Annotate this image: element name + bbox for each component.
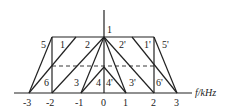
tick-label: 0 [101, 97, 106, 108]
tick-label: 3 [174, 97, 179, 108]
tick-label: -3 [23, 97, 31, 108]
tick-label: -1 [75, 97, 83, 108]
region-label: 3 [74, 77, 79, 88]
region-label: 1 [60, 39, 65, 50]
axis-label: f/kHz [195, 87, 216, 98]
region-label: 1' [144, 39, 151, 50]
region-label: 5 [41, 39, 46, 50]
region-label: 6' [156, 77, 163, 88]
region-label: 4 [96, 77, 101, 88]
region-label: 6 [44, 77, 49, 88]
region-label: 5' [162, 39, 169, 50]
region-label: 1 [107, 24, 112, 35]
region-label: 4' [106, 77, 113, 88]
tick-label: 1 [123, 97, 128, 108]
region-label: 2 [85, 39, 90, 50]
region-label: 3' [129, 77, 136, 88]
tick-label: -2 [46, 97, 54, 108]
spectrum-diagram: -3 -2 -1 0 1 2 3 f/kHz 1 5 1 2 6 3 4 2' … [0, 0, 230, 112]
tick-label: 2 [151, 97, 156, 108]
region-label: 2' [119, 39, 126, 50]
